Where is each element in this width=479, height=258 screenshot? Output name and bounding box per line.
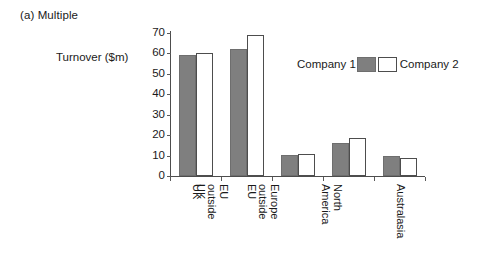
- bar-uk-company-2: [196, 53, 213, 176]
- bar-chart-plot: 010203040506070 UKEUoutsideUKEuropeoutsi…: [0, 0, 479, 258]
- x-axis-label-line: EU: [218, 184, 230, 219]
- y-tick-label-30: 30: [143, 109, 165, 121]
- x-axis-label-line: UK: [195, 184, 207, 219]
- x-axis-label-line: Europe: [269, 184, 281, 219]
- bar-australasia-company-1: [383, 156, 400, 176]
- y-tick-mark-30: [167, 115, 171, 116]
- y-tick-label-40: 40: [143, 89, 165, 101]
- bar-australasia-company-2: [400, 158, 417, 176]
- x-tick-mark-1: [221, 177, 222, 181]
- x-tick-mark-end: [425, 177, 426, 181]
- y-tick-label-0: 0: [143, 170, 165, 182]
- x-tick-mark-4: [374, 177, 375, 181]
- y-tick-mark-60: [167, 53, 171, 54]
- x-axis-line: [170, 176, 425, 177]
- legend-swatch-company-1: [357, 57, 376, 72]
- bar-europe-outside-eu-company-1: [281, 155, 298, 176]
- y-tick-label-50: 50: [143, 68, 165, 80]
- y-tick-mark-50: [167, 74, 171, 75]
- x-axis-label-line: EU: [246, 184, 258, 219]
- y-tick-mark-20: [167, 135, 171, 136]
- bar-europe-outside-eu-company-2: [298, 154, 315, 176]
- y-axis-tick-labels: 010203040506070: [143, 0, 165, 258]
- chart-legend: Company 1 Company 2: [297, 57, 459, 72]
- y-tick-label-20: 20: [143, 129, 165, 141]
- x-axis-label-europe-outside-eu: EuropeoutsideEU: [246, 184, 281, 219]
- bar-north-america-company-2: [349, 138, 366, 176]
- x-axis-label-line: America: [320, 184, 332, 224]
- legend-swatch-company-2: [378, 57, 397, 72]
- x-axis-label-line: outside: [206, 184, 218, 219]
- bar-uk-company-1: [179, 55, 196, 176]
- x-axis-label-north-america: NorthAmerica: [320, 184, 343, 224]
- x-tick-mark-3: [323, 177, 324, 181]
- legend-label-company-1: Company 1: [297, 59, 356, 71]
- x-tick-mark-0: [170, 177, 171, 181]
- x-axis-label-line: North: [331, 184, 343, 224]
- x-axis-label-line: Australasia: [394, 184, 406, 238]
- bar-north-america-company-1: [332, 143, 349, 176]
- x-tick-mark-2: [272, 177, 273, 181]
- x-axis-label-eu-outside-uk: EUoutsideUK: [195, 184, 230, 219]
- y-tick-label-70: 70: [143, 27, 165, 39]
- y-tick-label-10: 10: [143, 150, 165, 162]
- y-tick-mark-70: [167, 33, 171, 34]
- legend-label-company-2: Company 2: [400, 59, 459, 71]
- y-tick-mark-10: [167, 156, 171, 157]
- bar-eu-outside-uk-company-2: [247, 35, 264, 176]
- y-tick-mark-40: [167, 94, 171, 95]
- x-axis-label-australasia: Australasia: [394, 184, 406, 238]
- x-axis-label-line: outside: [257, 184, 269, 219]
- bar-eu-outside-uk-company-1: [230, 49, 247, 176]
- y-tick-label-60: 60: [143, 48, 165, 60]
